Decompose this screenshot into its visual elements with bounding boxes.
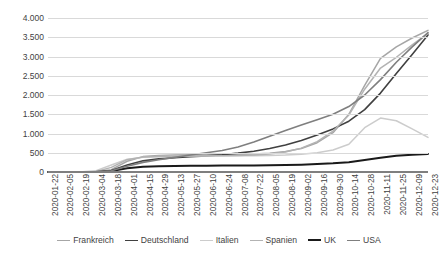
x-axis-tick-label: 2020-07-22	[257, 174, 265, 216]
x-axis-tick-label: 2020-10-14	[352, 174, 360, 216]
y-axis-tick-label: 4.000	[23, 14, 44, 23]
y-axis-tick-label: 3.500	[23, 33, 44, 42]
legend-item-label: Frankreich	[73, 236, 114, 245]
x-axis-tick-label: 2020-09-02	[305, 174, 313, 216]
legend-item-label: Italien	[216, 236, 239, 245]
x-axis-tick-label: 2020-03-18	[115, 174, 123, 216]
x-axis-tick-label: 2020-04-15	[147, 174, 155, 216]
x-axis-tick-label: 2020-05-13	[178, 174, 186, 216]
series-line	[48, 30, 428, 172]
x-axis-tick-label: 2020-08-19	[289, 174, 297, 216]
x-axis-tick-label: 2020-04-29	[162, 174, 170, 216]
legend-swatch-icon	[347, 240, 360, 241]
x-axis-tick-label: 2020-09-30	[337, 174, 345, 216]
x-axis: 2020-01-222020-02-052020-02-192020-03-04…	[48, 174, 428, 232]
legend-item-label: Deutschland	[141, 236, 189, 245]
legend-item[interactable]: USA	[347, 236, 381, 245]
y-axis-tick-label: 1.000	[23, 129, 44, 138]
x-axis-tick-label: 2020-09-16	[321, 174, 329, 216]
legend-swatch-icon	[200, 240, 213, 241]
legend-item-label: USA	[363, 236, 381, 245]
legend-swatch-icon	[250, 240, 263, 241]
y-axis-tick-label: 500	[30, 149, 44, 158]
legend-item[interactable]: Italien	[200, 236, 239, 245]
legend-swatch-icon	[57, 240, 70, 241]
x-axis-tick-label: 2020-01-22	[52, 174, 60, 216]
y-axis-tick-label: 1.500	[23, 110, 44, 119]
axis-baseline	[48, 171, 428, 172]
series-line	[48, 35, 428, 172]
y-axis-tick-label: 2.000	[23, 91, 44, 100]
gridline	[48, 57, 428, 58]
x-axis-tick-label: 2020-04-01	[131, 174, 139, 216]
gridline	[48, 76, 428, 77]
legend-swatch-icon	[308, 239, 321, 241]
gridline	[48, 37, 428, 38]
y-axis-tick-label: 3.000	[23, 52, 44, 61]
legend-item[interactable]: Deutschland	[125, 236, 189, 245]
y-axis: 05001.0001.5002.0002.5003.0003.5004.000	[0, 18, 44, 172]
x-axis-tick-label: 2020-06-24	[226, 174, 234, 216]
gridline	[48, 95, 428, 96]
gridline	[48, 153, 428, 154]
x-axis-tick-label: 2020-10-28	[368, 174, 376, 216]
x-axis-tick-label: 2020-02-05	[67, 174, 75, 216]
legend-item-label: UK	[324, 236, 336, 245]
legend-item[interactable]: UK	[308, 236, 336, 245]
chart-legend: FrankreichDeutschlandItalienSpanienUKUSA	[0, 236, 438, 245]
x-axis-tick-label: 2020-03-04	[99, 174, 107, 216]
x-axis-tick-label: 2020-08-05	[273, 174, 281, 216]
legend-swatch-icon	[125, 240, 138, 241]
plot-area	[48, 18, 428, 172]
y-axis-tick-label: 0	[39, 168, 44, 177]
x-axis-tick-label: 2020-11-11	[384, 174, 392, 215]
gridline	[48, 114, 428, 115]
legend-item-label: Spanien	[266, 236, 298, 245]
x-axis-tick-label: 2020-11-25	[400, 174, 408, 215]
x-axis-tick-label: 2020-07-08	[242, 174, 250, 216]
legend-item[interactable]: Spanien	[250, 236, 298, 245]
gridline	[48, 134, 428, 135]
gridline	[48, 18, 428, 19]
y-axis-tick-label: 2.500	[23, 72, 44, 81]
series-line	[48, 118, 428, 172]
x-axis-tick-label: 2020-06-10	[210, 174, 218, 216]
x-axis-tick-label: 2020-12-23	[432, 174, 440, 216]
x-axis-tick-label: 2020-02-19	[83, 174, 91, 216]
legend-item[interactable]: Frankreich	[57, 236, 114, 245]
x-axis-tick-label: 2020-05-27	[194, 174, 202, 216]
x-axis-tick-label: 2020-12-09	[416, 174, 424, 216]
